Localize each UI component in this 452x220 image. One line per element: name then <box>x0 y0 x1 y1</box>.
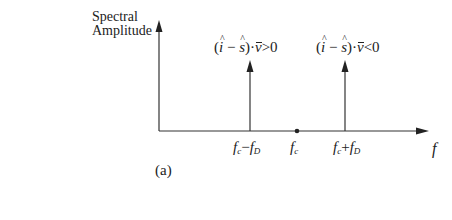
x-axis-label: f <box>432 141 436 156</box>
condition-label-upper: (i − s)·v<0 <box>316 40 380 55</box>
tick-label-fc: fc <box>290 140 298 159</box>
x-axis-arrow-icon <box>416 128 429 135</box>
panel-label: (a) <box>155 163 172 178</box>
spike-lower-arrow-icon <box>247 60 254 72</box>
spectrum-diagram <box>0 0 452 220</box>
tick-label-fc-minus-fd: fc−fD <box>233 140 260 159</box>
y-axis-arrow-icon <box>156 20 163 32</box>
y-axis-label-line1: Spectral <box>92 10 152 24</box>
spike-upper-arrow-icon <box>342 60 349 72</box>
y-axis-label-line2: Amplitude <box>92 24 152 38</box>
y-axis-label: Spectral Amplitude <box>92 10 152 38</box>
tick-label-fc-plus-fd: fc+fD <box>333 140 360 159</box>
condition-label-lower: (i − s)·v>0 <box>214 40 278 55</box>
carrier-dot <box>295 129 300 134</box>
